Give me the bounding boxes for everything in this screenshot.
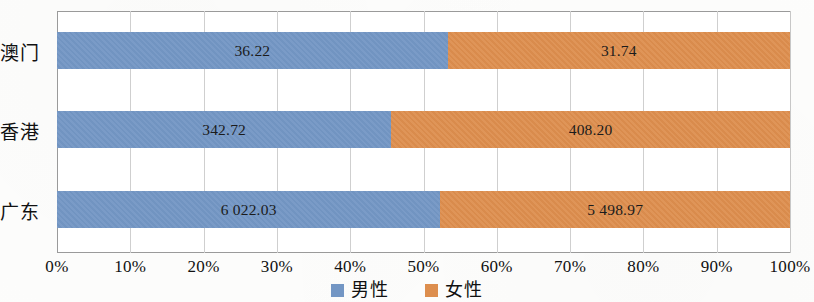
legend-swatch-male-icon [331,284,344,297]
bar-segment-female[interactable]: 5 498.97 [440,191,790,228]
legend-label-female: 女性 [445,281,483,299]
bar-segment-male[interactable]: 342.72 [57,111,391,148]
category-label-1: 香港 [0,117,52,144]
x-tick-80%: 80% [627,257,659,277]
bar-segment-male[interactable]: 36.22 [57,32,448,69]
bar-value-label: 36.22 [234,42,270,60]
legend-label-male: 男性 [351,281,389,299]
bar-row: 342.72408.20 [57,111,790,148]
chart-legend: 男性 女性 [0,281,814,299]
bar-row: 6 022.035 498.97 [57,191,790,228]
bar-value-label: 342.72 [202,121,246,139]
page-background: 澳门香港广东 36.2231.74342.72408.206 022.035 4… [0,0,814,302]
legend-item-male[interactable]: 男性 [331,281,389,299]
legend-swatch-female-icon [425,284,438,297]
category-label-2: 广东 [0,197,52,224]
legend-item-female[interactable]: 女性 [425,281,483,299]
bar-value-label: 5 498.97 [587,201,643,219]
x-tick-50%: 50% [407,257,439,277]
bar-row: 36.2231.74 [57,32,790,69]
gridline-100% [790,11,791,253]
x-tick-90%: 90% [701,257,733,277]
x-tick-40%: 40% [334,257,366,277]
bar-segment-male[interactable]: 6 022.03 [57,191,440,228]
x-tick-30%: 30% [261,257,293,277]
bar-value-label: 6 022.03 [221,201,277,219]
x-tick-100%: 100% [770,257,811,277]
x-tick-60%: 60% [481,257,513,277]
bar-value-label: 408.20 [569,121,613,139]
bar-segment-female[interactable]: 31.74 [448,32,790,69]
bar-value-label: 31.74 [601,42,637,60]
stacked-bar-chart: 澳门香港广东 36.2231.74342.72408.206 022.035 4… [0,0,814,302]
x-tick-70%: 70% [554,257,586,277]
x-tick-20%: 20% [188,257,220,277]
x-tick-0%: 0% [45,257,68,277]
bar-segment-female[interactable]: 408.20 [391,111,790,148]
x-tick-10%: 10% [114,257,146,277]
category-label-0: 澳门 [0,38,52,65]
